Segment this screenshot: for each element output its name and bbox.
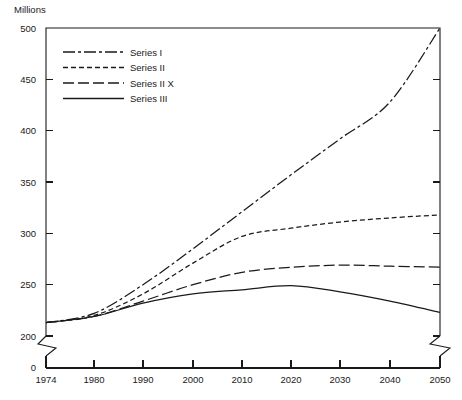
axis-break-marks <box>38 336 450 356</box>
chart-canvas: Millions 200250300350400450500 0 1974198… <box>0 0 462 400</box>
y-axis-title: Millions <box>14 4 46 15</box>
y-tick-label-250: 250 <box>20 279 36 290</box>
y-tick-label-200: 200 <box>20 331 36 342</box>
x-axis-ticks: 197419801990200020102020203020402050 <box>35 360 450 385</box>
series-layer <box>46 28 440 323</box>
legend-label-2: Series II <box>130 62 165 73</box>
x-tick-label-1990: 1990 <box>132 374 153 385</box>
axis-break-left <box>38 336 56 356</box>
legend-label-3: Series II X <box>130 78 174 89</box>
x-tick-label-2000: 2000 <box>182 374 203 385</box>
x-tick-label-2030: 2030 <box>329 374 350 385</box>
x-tick-label-1980: 1980 <box>83 374 104 385</box>
line-chart-figure: Millions 200250300350400450500 0 1974198… <box>0 0 462 400</box>
y-axis-zero-label: 0 <box>31 362 36 373</box>
y-axis-ticks: 200250300350400450500 <box>20 23 53 342</box>
y-tick-label-500: 500 <box>20 23 36 34</box>
series-line-2 <box>46 215 440 323</box>
chart-legend: Series ISeries IISeries II XSeries III <box>63 47 174 105</box>
x-tick-label-1974: 1974 <box>35 374 56 385</box>
x-tick-label-2010: 2010 <box>231 374 252 385</box>
plot-frame <box>46 28 440 368</box>
x-tick-label-2020: 2020 <box>280 374 301 385</box>
y-tick-label-400: 400 <box>20 125 36 136</box>
y-tick-label-300: 300 <box>20 228 36 239</box>
x-tick-label-2050: 2050 <box>429 374 450 385</box>
legend-label-4: Series III <box>130 93 168 104</box>
x-tick-label-2040: 2040 <box>379 374 400 385</box>
y-tick-label-350: 350 <box>20 177 36 188</box>
y-tick-label-450: 450 <box>20 74 36 85</box>
y-axis-ticks-right <box>433 79 440 336</box>
axis-break-right <box>430 336 450 356</box>
series-line-1 <box>46 28 440 323</box>
series-line-4 <box>46 286 440 323</box>
legend-label-1: Series I <box>130 47 162 58</box>
